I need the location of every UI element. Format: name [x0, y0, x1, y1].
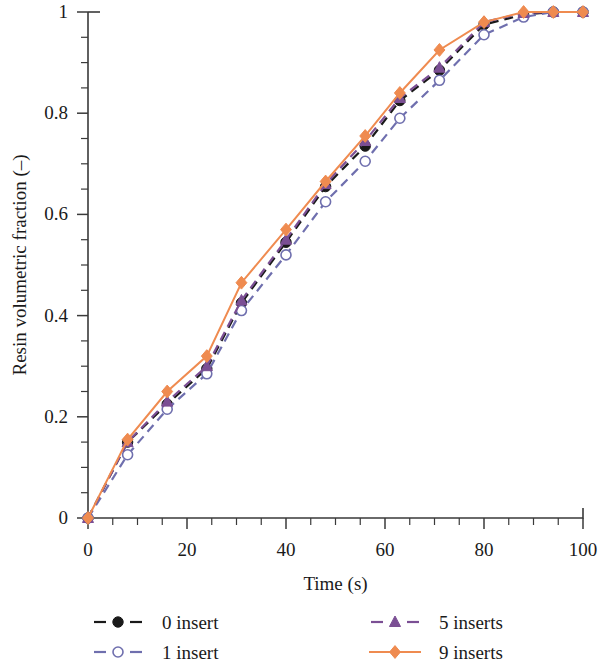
x-tick-label: 20	[178, 539, 197, 560]
chart-canvas: 02040608010000.20.40.60.81Time (s)Resin …	[0, 0, 609, 663]
data-point	[434, 75, 444, 85]
legend-marker	[113, 617, 123, 627]
y-tick-label: 0.2	[44, 406, 68, 427]
legend-label: 0 insert	[162, 612, 219, 633]
chart-figure: 02040608010000.20.40.60.81Time (s)Resin …	[0, 0, 609, 663]
data-point	[281, 250, 291, 260]
y-tick-label: 0.4	[44, 305, 68, 326]
x-tick-label: 60	[376, 539, 395, 560]
y-tick-label: 1	[59, 1, 69, 22]
legend-label: 9 inserts	[439, 642, 503, 663]
chart-background	[0, 0, 609, 663]
data-point	[321, 197, 331, 207]
y-tick-label: 0	[59, 507, 69, 528]
data-point	[123, 450, 133, 460]
data-point	[360, 156, 370, 166]
legend-marker	[113, 647, 123, 657]
x-tick-label: 100	[569, 539, 598, 560]
x-tick-label: 0	[83, 539, 93, 560]
data-point	[479, 30, 489, 40]
x-tick-label: 80	[475, 539, 494, 560]
legend-label: 1 insert	[162, 642, 219, 663]
x-tick-label: 40	[277, 539, 296, 560]
y-tick-label: 0.6	[44, 203, 68, 224]
legend-label: 5 inserts	[439, 612, 503, 633]
y-axis-title: Resin volumetric fraction (–)	[9, 154, 31, 375]
y-tick-label: 0.8	[44, 102, 68, 123]
data-point	[395, 113, 405, 123]
x-axis-title: Time (s)	[303, 573, 367, 595]
